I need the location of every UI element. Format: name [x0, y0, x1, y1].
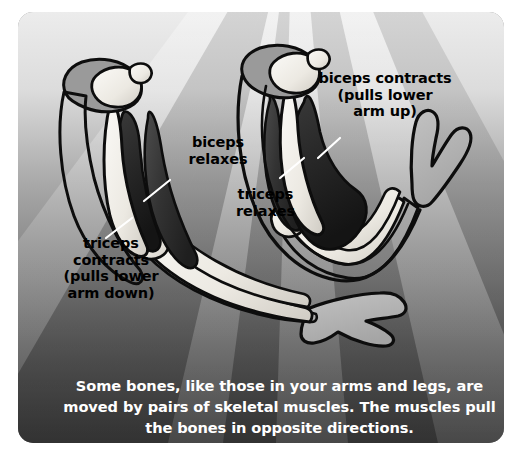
flexed-arm-clavicle — [308, 50, 330, 70]
label-biceps-contracts: biceps contracts (pulls lower arm up) — [300, 70, 470, 120]
label-biceps-relaxes: biceps relaxes — [163, 134, 273, 167]
figure-caption: Some bones, like those in your arms and … — [52, 375, 504, 438]
label-triceps-relaxes: triceps relaxes — [208, 186, 323, 219]
extended-arm-clavicle — [130, 64, 152, 84]
illustration-card: biceps contracts (pulls lower arm up) bi… — [18, 12, 504, 443]
label-triceps-contracts: triceps contracts (pulls lower arm down) — [40, 235, 182, 301]
figure-root: biceps contracts (pulls lower arm up) bi… — [0, 0, 525, 458]
